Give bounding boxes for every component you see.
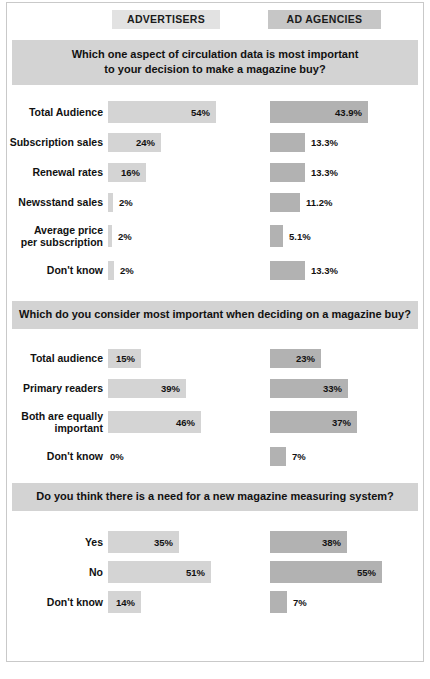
bar-group-ad-agencies: 38%: [270, 527, 347, 557]
bar-value-ad-agencies: 33%: [323, 383, 342, 394]
question-banner-3: Do you think there is a need for a new m…: [12, 483, 418, 511]
table-row: Average price per subscription 2% 5.1%: [0, 217, 430, 255]
bar-ad-agencies: [270, 133, 305, 152]
bar-group-advertisers: 2%: [108, 255, 134, 285]
table-row: Primary readers 39% 33%: [0, 373, 430, 403]
table-row: Don't know 2% 13.3%: [0, 255, 430, 285]
bar-group-ad-agencies: 13.3%: [270, 127, 338, 157]
table-row: Total audience 15% 23%: [0, 343, 430, 373]
column-header-ad-agencies: AD AGENCIES: [268, 10, 381, 29]
bar-value-ad-agencies: 7%: [292, 451, 306, 462]
bar-advertisers: 46%: [108, 411, 201, 433]
bar-value-ad-agencies: 38%: [322, 537, 341, 548]
bar-ad-agencies: [270, 261, 305, 280]
row-label: Don't know: [0, 596, 103, 608]
bar-value-advertisers: 24%: [136, 137, 155, 148]
table-row: Don't know 0% 7%: [0, 441, 430, 471]
row-label-line-1: Both are equally: [0, 410, 103, 422]
table-row: Total Audience 54% 43.9%: [0, 97, 430, 127]
bar-advertisers: [108, 193, 113, 212]
row-label: Both are equally important: [0, 410, 103, 434]
row-label: No: [0, 566, 103, 578]
table-row: Renewal rates 16% 13.3%: [0, 157, 430, 187]
bar-value-advertisers: 46%: [176, 417, 195, 428]
row-label: Renewal rates: [0, 166, 103, 178]
bar-value-ad-agencies: 13.3%: [311, 167, 338, 178]
survey-chart-page: ADVERTISERS AD AGENCIES Which one aspect…: [0, 0, 430, 679]
bar-value-advertisers: 2%: [120, 265, 134, 276]
bar-value-ad-agencies: 55%: [357, 567, 376, 578]
bar-ad-agencies: [270, 163, 305, 182]
row-label-line-2: per subscription: [0, 236, 103, 248]
bar-value-advertisers: 0%: [110, 451, 124, 462]
bar-value-ad-agencies: 7%: [293, 597, 307, 608]
bar-advertisers: [108, 261, 114, 280]
row-label: Newsstand sales: [0, 196, 103, 208]
bar-group-advertisers: 24%: [108, 127, 161, 157]
bar-group-ad-agencies: 43.9%: [270, 97, 368, 127]
bar-group-ad-agencies: 7%: [270, 587, 307, 617]
table-row: Newsstand sales 2% 11.2%: [0, 187, 430, 217]
bar-rows-3: Yes 35% 38% No 51%: [0, 527, 430, 617]
question-banner-1: Which one aspect of circulation data is …: [12, 40, 418, 85]
bar-group-advertisers: 35%: [108, 527, 179, 557]
bar-value-ad-agencies: 11.2%: [306, 197, 332, 208]
bar-group-ad-agencies: 13.3%: [270, 157, 338, 187]
bar-group-advertisers: 51%: [108, 557, 211, 587]
bar-ad-agencies: 43.9%: [270, 101, 368, 123]
row-label-line-2: important: [0, 422, 103, 434]
bar-ad-agencies: 38%: [270, 531, 347, 553]
column-header-advertisers: ADVERTISERS: [112, 10, 220, 29]
bar-value-ad-agencies: 13.3%: [311, 265, 338, 276]
bar-ad-agencies: [270, 193, 300, 212]
table-row: No 51% 55%: [0, 557, 430, 587]
table-row: Subscription sales 24% 13.3%: [0, 127, 430, 157]
table-row: Don't know 14% 7%: [0, 587, 430, 617]
bar-value-advertisers: 14%: [116, 597, 135, 608]
bar-value-advertisers: 16%: [121, 167, 140, 178]
bar-group-ad-agencies: 33%: [270, 373, 348, 403]
bar-ad-agencies: 33%: [270, 379, 348, 398]
bar-advertisers: 14%: [108, 591, 141, 613]
table-row: Yes 35% 38%: [0, 527, 430, 557]
bar-advertisers: 51%: [108, 561, 211, 583]
bar-group-advertisers: 0%: [108, 441, 124, 471]
bar-group-ad-agencies: 11.2%: [270, 187, 332, 217]
survey-section-2: Which do you consider most important whe…: [0, 301, 430, 471]
row-label: Subscription sales: [0, 136, 103, 148]
row-label-line-1: Average price: [0, 224, 103, 236]
bar-ad-agencies: 37%: [270, 411, 357, 433]
bar-advertisers: 39%: [108, 379, 186, 398]
bar-ad-agencies: 23%: [270, 349, 321, 368]
bar-value-advertisers: 35%: [154, 537, 173, 548]
question-banner-2: Which do you consider most important whe…: [12, 301, 418, 329]
bar-group-ad-agencies: 55%: [270, 557, 382, 587]
bar-group-advertisers: 2%: [108, 187, 133, 217]
bar-group-advertisers: 46%: [108, 403, 201, 441]
bar-rows-1: Total Audience 54% 43.9% Subscription sa…: [0, 97, 430, 285]
table-row: Both are equally important 46% 37%: [0, 403, 430, 441]
bar-ad-agencies: [270, 225, 283, 247]
bar-advertisers: 35%: [108, 531, 179, 553]
bar-value-advertisers: 15%: [116, 353, 135, 364]
bar-advertisers: 15%: [108, 349, 141, 368]
bar-advertisers: 16%: [108, 163, 146, 182]
bar-group-ad-agencies: 37%: [270, 403, 357, 441]
bar-value-ad-agencies: 43.9%: [335, 107, 362, 118]
bar-value-advertisers: 51%: [186, 567, 205, 578]
row-label: Average price per subscription: [0, 224, 103, 248]
bar-group-advertisers: 39%: [108, 373, 186, 403]
row-label: Yes: [0, 536, 103, 548]
row-label: Don't know: [0, 264, 103, 276]
bar-group-ad-agencies: 23%: [270, 343, 321, 373]
row-label: Total audience: [0, 352, 103, 364]
bar-value-advertisers: 39%: [161, 383, 180, 394]
bar-group-ad-agencies: 7%: [270, 441, 306, 471]
bar-value-advertisers: 2%: [118, 231, 132, 242]
survey-section-1: Which one aspect of circulation data is …: [0, 40, 430, 285]
bar-advertisers: [108, 225, 112, 247]
bar-rows-2: Total audience 15% 23% Primary readers 3…: [0, 343, 430, 471]
bar-ad-agencies: [270, 447, 286, 466]
question-line-1: Which one aspect of circulation data is …: [18, 47, 412, 62]
question-line-2: to your decision to make a magazine buy?: [18, 62, 412, 77]
